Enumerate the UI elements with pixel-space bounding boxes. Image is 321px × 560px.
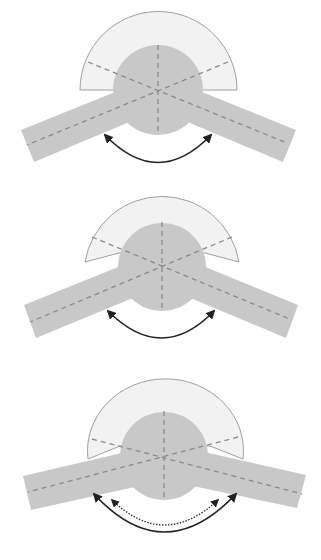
joint-diagram-1 [0, 0, 321, 185]
motion-arrow [105, 135, 211, 163]
joint-diagram-2-svg [0, 185, 321, 370]
joint-diagram-1-svg [0, 0, 321, 185]
joint-diagram-3 [0, 370, 321, 560]
joint-diagram-2 [0, 185, 321, 370]
motion-arrow [108, 311, 214, 338]
joint-diagram-3-svg [0, 370, 321, 560]
